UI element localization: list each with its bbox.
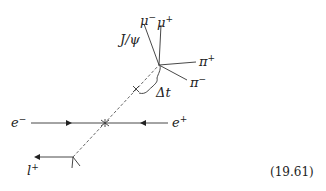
decay-diagram: J/ψ μ− μ+ π+ π− Δt e− e+ l+ (19.61) — [0, 0, 326, 191]
label-pi-plus: π+ — [198, 53, 215, 69]
lepton-track — [38, 157, 80, 168]
label-e-minus: e− — [11, 114, 26, 130]
e-minus-arrow-icon — [66, 120, 72, 126]
label-delta-t: Δt — [155, 85, 171, 100]
equation-number: (19.61) — [270, 165, 314, 179]
b-flight-path — [73, 65, 159, 157]
label-mu-plus: μ+ — [157, 14, 173, 30]
lepton-arrow-icon — [34, 154, 40, 160]
label-mu-minus: μ− — [140, 12, 156, 28]
beam-line — [31, 120, 168, 126]
label-jpsi: J/ψ — [117, 32, 141, 47]
label-e-plus: e+ — [172, 114, 187, 130]
decay-tracks — [144, 24, 196, 80]
label-lepton: l+ — [27, 162, 39, 178]
label-pi-minus: π− — [189, 74, 206, 90]
cross-mark-icon — [133, 86, 139, 92]
e-plus-arrow-icon — [140, 120, 146, 126]
